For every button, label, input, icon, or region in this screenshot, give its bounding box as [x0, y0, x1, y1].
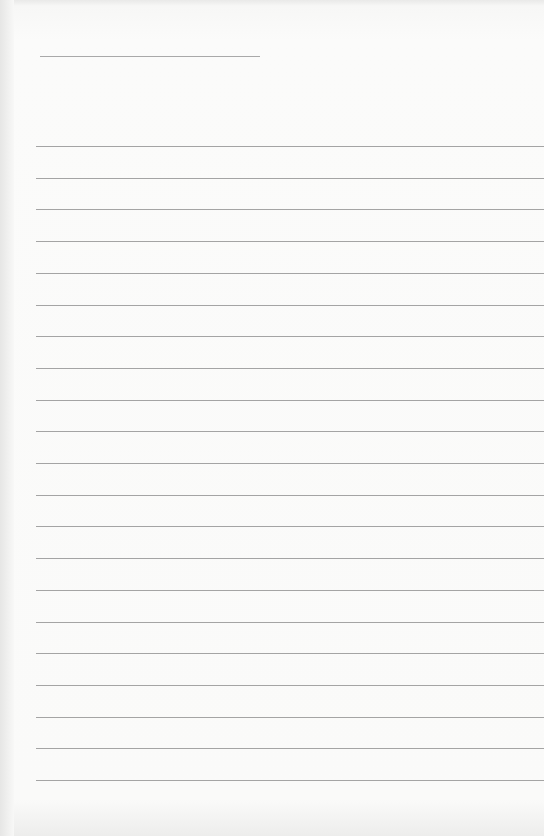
ruled-line — [36, 305, 544, 306]
ruled-line — [36, 495, 544, 496]
ruled-line — [36, 558, 544, 559]
ruled-line — [36, 685, 544, 686]
ruled-line — [36, 463, 544, 464]
ruled-line — [36, 622, 544, 623]
ruled-line — [36, 209, 544, 210]
ruled-line — [36, 146, 544, 147]
ruled-line — [36, 780, 544, 781]
ruled-line — [36, 400, 544, 401]
ruled-line — [36, 241, 544, 242]
ruled-line — [36, 590, 544, 591]
ruled-line — [36, 526, 544, 527]
ruled-line — [36, 431, 544, 432]
ruled-line — [36, 748, 544, 749]
paper-left-edge-shadow — [0, 0, 14, 836]
ruled-line — [36, 368, 544, 369]
lined-paper-page — [0, 0, 544, 836]
ruled-line — [36, 336, 544, 337]
ruled-line — [36, 653, 544, 654]
title-underline — [40, 56, 260, 57]
ruled-line — [36, 717, 544, 718]
ruled-line — [36, 273, 544, 274]
ruled-line — [36, 178, 544, 179]
